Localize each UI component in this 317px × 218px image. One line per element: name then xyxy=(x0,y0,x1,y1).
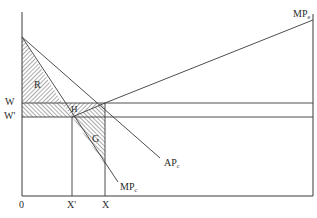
economics-diagram xyxy=(0,0,317,218)
mp-c-label: MPc xyxy=(120,182,137,195)
mp-e-curve xyxy=(72,20,313,117)
mp-e-label-sub: e xyxy=(307,14,310,20)
ap-c-label: APc xyxy=(164,158,179,171)
region-r-label: R xyxy=(34,80,41,90)
x-label: X xyxy=(102,200,109,210)
w-prime-label: W' xyxy=(4,111,15,121)
mp-c-label-text: MP xyxy=(120,181,134,192)
ap-c-label-sub: c xyxy=(177,163,180,169)
mp-c-label-sub: c xyxy=(134,187,137,193)
region-g-label: G xyxy=(92,134,99,144)
ap-c-label-text: AP xyxy=(164,157,177,168)
x-prime-label: X' xyxy=(67,200,76,210)
region-r xyxy=(22,37,62,103)
region-h-label: H xyxy=(71,104,78,114)
origin-label: 0 xyxy=(19,200,24,210)
mp-e-label: MPe xyxy=(293,9,310,22)
mp-e-label-text: MP xyxy=(293,8,307,19)
w-label: W xyxy=(5,97,14,107)
